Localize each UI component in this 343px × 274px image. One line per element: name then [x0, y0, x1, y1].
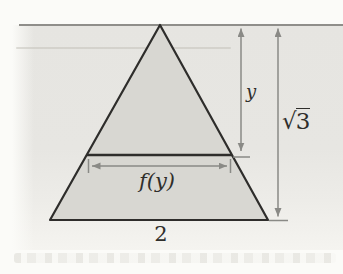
radicand: 3	[296, 108, 311, 134]
radical-sign: √	[282, 109, 297, 135]
label-sqrt3: √ 3	[282, 108, 310, 134]
label-base-width: 2	[154, 223, 167, 246]
label-fy: f(y)	[139, 170, 175, 193]
label-y: y	[246, 82, 256, 102]
triangle-diagram	[0, 0, 343, 274]
figure-canvas: y f(y) √ 3 2	[0, 0, 343, 274]
